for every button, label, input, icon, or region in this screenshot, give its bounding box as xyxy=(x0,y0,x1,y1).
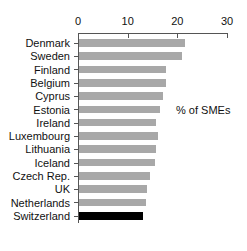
bar xyxy=(79,145,156,153)
bar-row: Belgium xyxy=(0,76,247,89)
category-label: Czech Rep. xyxy=(13,170,70,182)
bar-row: Lithuania xyxy=(0,143,247,156)
bar xyxy=(79,159,155,167)
bar-row: UK xyxy=(0,183,247,196)
category-tick xyxy=(74,43,78,44)
bar xyxy=(79,185,147,193)
category-tick xyxy=(74,163,78,164)
bar-row: Luxembourg xyxy=(0,130,247,143)
bar-row: Netherlands xyxy=(0,196,247,209)
category-tick xyxy=(74,109,78,110)
bar-row: Denmark xyxy=(0,37,247,50)
category-tick xyxy=(74,56,78,57)
x-tick-label: 30 xyxy=(221,16,233,27)
bar xyxy=(79,79,166,87)
category-tick xyxy=(74,136,78,137)
bar-row: Cyprus xyxy=(0,90,247,103)
bar xyxy=(79,66,166,74)
category-label: Ireland xyxy=(36,117,70,129)
category-tick xyxy=(74,202,78,203)
category-tick xyxy=(74,83,78,84)
bar-row: Sweden xyxy=(0,50,247,63)
category-label: Finland xyxy=(34,64,70,76)
category-label: Denmark xyxy=(25,37,70,49)
units-annotation: % of SMEs xyxy=(176,104,230,116)
bar-chart: 0102030 DenmarkSwedenFinlandBelgiumCypru… xyxy=(0,0,247,251)
x-tick-label: 10 xyxy=(122,16,134,27)
bar-row: Iceland xyxy=(0,156,247,169)
category-label: Estonia xyxy=(33,104,70,116)
bar xyxy=(79,39,185,47)
bar xyxy=(79,212,143,220)
category-label: Belgium xyxy=(30,77,70,89)
bar xyxy=(79,172,150,180)
category-label: Cyprus xyxy=(35,90,70,102)
bar-row: Czech Rep. xyxy=(0,170,247,183)
category-tick xyxy=(74,149,78,150)
x-tick-label: 20 xyxy=(171,16,183,27)
bar-row: Finland xyxy=(0,63,247,76)
category-tick xyxy=(74,216,78,217)
category-label: Iceland xyxy=(35,157,70,169)
bar-row: Ireland xyxy=(0,116,247,129)
bar-row: Switzerland xyxy=(0,209,247,222)
category-label: Lithuania xyxy=(25,143,70,155)
category-label: UK xyxy=(55,183,70,195)
bar xyxy=(79,92,163,100)
bar xyxy=(79,52,182,60)
bar xyxy=(79,106,160,114)
bar xyxy=(79,199,146,207)
x-tick-label: 0 xyxy=(75,16,81,27)
category-label: Netherlands xyxy=(11,197,70,209)
category-tick xyxy=(74,96,78,97)
x-axis-line xyxy=(78,33,227,34)
category-label: Sweden xyxy=(30,50,70,62)
bar xyxy=(79,132,158,140)
category-tick xyxy=(74,189,78,190)
bar xyxy=(79,119,156,127)
category-tick xyxy=(74,69,78,70)
category-label: Switzerland xyxy=(13,210,70,222)
category-tick xyxy=(74,123,78,124)
category-tick xyxy=(74,176,78,177)
category-label: Luxembourg xyxy=(9,130,70,142)
